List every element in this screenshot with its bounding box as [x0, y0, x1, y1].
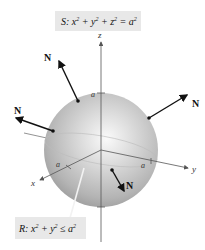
svg-text:N: N [126, 180, 134, 191]
z-axis-label: z [97, 30, 102, 40]
y-intercept-label: a [141, 161, 145, 170]
x-intercept-label: a [56, 160, 60, 169]
z-intercept-label: a [91, 90, 95, 99]
sphere-surface-diagram: z x y a a a N N N N S: x2 + y2 + z2 = a2… [0, 0, 205, 250]
normal-vector-top-left: N [44, 52, 80, 103]
surface-equation: S: x2 + y2 + z2 = a2 [61, 16, 137, 27]
x-axis-label: x [30, 178, 35, 188]
svg-text:N: N [44, 52, 52, 63]
svg-text:N: N [192, 98, 200, 109]
y-axis-label: y [191, 164, 196, 174]
normal-vector-right: N [147, 95, 200, 120]
svg-text:N: N [14, 105, 22, 116]
region-equation: R: x2 + y2 ≤ a2 [18, 223, 76, 234]
